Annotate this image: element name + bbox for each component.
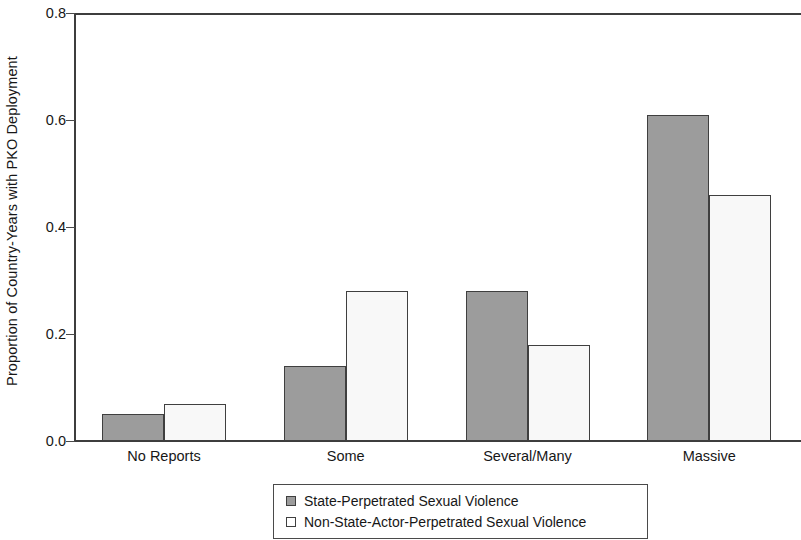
y-axis-tick-label: 0.2 bbox=[22, 326, 66, 342]
legend-label-state-perpetrated: State-Perpetrated Sexual Violence bbox=[304, 493, 519, 509]
y-axis-tick-mark bbox=[66, 441, 75, 442]
bar bbox=[102, 414, 164, 441]
bar bbox=[709, 195, 771, 441]
y-axis-tick-label: 0.6 bbox=[22, 112, 66, 128]
bar bbox=[528, 345, 590, 441]
chart-legend: State-Perpetrated Sexual Violence Non-St… bbox=[273, 484, 648, 539]
bar bbox=[284, 366, 346, 441]
y-axis-tick-mark bbox=[66, 227, 75, 228]
y-axis-tick-label: 0.0 bbox=[22, 433, 66, 449]
bar bbox=[647, 115, 709, 441]
y-axis-tick-mark bbox=[66, 120, 75, 121]
x-axis-tick-label: Massive bbox=[683, 448, 736, 464]
legend-label-non-state-actor-perpetrated: Non-State-Actor-Perpetrated Sexual Viole… bbox=[304, 514, 586, 530]
x-axis-tick-label: Some bbox=[327, 448, 365, 464]
bar-chart-figure: Proportion of Country-Years with PKO Dep… bbox=[0, 0, 801, 540]
y-axis-tick-label: 0.8 bbox=[22, 5, 66, 21]
legend-swatch-state-perpetrated bbox=[286, 496, 296, 506]
x-axis-tick-label: No Reports bbox=[127, 448, 200, 464]
y-axis-tick-labels: 0.00.20.40.60.8 bbox=[16, 0, 66, 540]
legend-swatch-non-state-actor-perpetrated bbox=[286, 517, 296, 527]
legend-item-1: Non-State-Actor-Perpetrated Sexual Viole… bbox=[286, 511, 637, 532]
bars-layer bbox=[74, 13, 801, 441]
legend-item-0: State-Perpetrated Sexual Violence bbox=[286, 490, 637, 511]
y-axis-tick-label: 0.4 bbox=[22, 219, 66, 235]
y-axis-tick-mark bbox=[66, 334, 75, 335]
x-axis-tick-label: Several/Many bbox=[483, 448, 572, 464]
bar bbox=[346, 291, 408, 441]
bar bbox=[164, 404, 226, 441]
bar bbox=[466, 291, 528, 441]
y-axis-tick-mark bbox=[66, 13, 75, 14]
